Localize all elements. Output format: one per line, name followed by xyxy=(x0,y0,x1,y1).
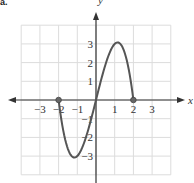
y-tick-label: 2 xyxy=(88,57,94,69)
y-axis-label: y xyxy=(97,0,103,6)
x-axis-left-arrow-icon xyxy=(8,97,16,103)
figure-label: a. xyxy=(0,0,8,7)
y-tick-label: 3 xyxy=(88,38,94,50)
x-tick-label: 1 xyxy=(112,103,118,115)
y-tick-label: −3 xyxy=(81,150,93,162)
x-axis-right-arrow-icon xyxy=(177,97,185,103)
endpoint-dot-icon xyxy=(56,97,62,103)
y-tick-label: 1 xyxy=(88,75,94,87)
axes: x y xyxy=(8,0,193,183)
x-tick-label: 2 xyxy=(131,103,137,115)
y-axis-up-arrow-icon xyxy=(93,12,99,20)
x-axis-label: x xyxy=(187,94,193,106)
x-tick-label: −3 xyxy=(34,103,46,115)
x-tick-label: 3 xyxy=(149,103,155,115)
function-graph: a. x y −3−2−1123321−1−2−3 xyxy=(0,0,194,183)
endpoint-dot-icon xyxy=(131,97,137,103)
